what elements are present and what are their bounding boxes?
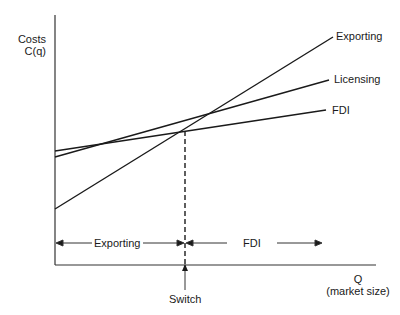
y-axis-label-line2: C(q) xyxy=(12,45,46,57)
range-label-fdi: FDI xyxy=(243,237,261,249)
x-axis-label-line1: Q xyxy=(322,273,394,285)
arrow-right-icon xyxy=(177,240,184,246)
label-licensing: Licensing xyxy=(334,73,380,85)
switch-marker xyxy=(182,264,188,290)
y-axis-label: Costs C(q) xyxy=(12,33,46,57)
arrow-left-icon xyxy=(56,240,63,246)
fdi-line xyxy=(55,110,326,151)
arrow-right-icon xyxy=(315,240,322,246)
arrow-left-icon xyxy=(186,240,193,246)
label-fdi: FDI xyxy=(332,104,350,116)
x-axis-label: Q (market size) xyxy=(322,273,394,297)
exporting-line xyxy=(55,37,333,209)
switch-label: Switch xyxy=(169,293,201,305)
y-axis-label-line1: Costs xyxy=(12,33,46,45)
chart-canvas xyxy=(0,0,400,315)
x-axis-label-line2: (market size) xyxy=(322,285,394,297)
label-exporting: Exporting xyxy=(336,30,382,42)
range-label-exporting: Exporting xyxy=(94,237,140,249)
